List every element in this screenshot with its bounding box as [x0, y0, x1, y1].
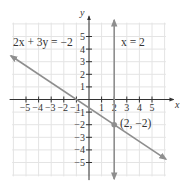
y-tick-label: 3 — [80, 56, 85, 67]
x-tick-label: 3 — [124, 102, 129, 113]
y-tick-label: −2 — [74, 119, 85, 130]
x-tick-label: −3 — [45, 102, 56, 113]
y-tick-label: 4 — [80, 44, 85, 55]
point-label: (2, −2) — [120, 117, 152, 130]
x-axis-label: x — [174, 99, 180, 110]
y-tick-label: 2 — [80, 69, 85, 80]
x-tick-label: −5 — [20, 102, 31, 113]
x-tick-label: −4 — [32, 102, 43, 113]
equation-label-vertical: x = 2 — [121, 36, 145, 48]
y-tick-label: 5 — [80, 31, 85, 42]
y-axis-label: y — [79, 7, 85, 18]
points — [111, 122, 117, 128]
x-tick-label: −2 — [57, 102, 68, 113]
y-tick-label: −1 — [74, 107, 85, 118]
y-tick-label: −3 — [74, 132, 85, 143]
coordinate-graph: −5−4−3−2−11234554321−1−2−3−4−5 y x 2x + … — [0, 0, 186, 189]
equation-label-line: 2x + 3y = −2 — [13, 36, 73, 49]
x-tick-label: 1 — [99, 102, 104, 113]
y-tick-label: 1 — [80, 81, 85, 92]
x-tick-label: 4 — [137, 102, 142, 113]
y-tick-label: −4 — [74, 144, 85, 155]
x-tick-label: 5 — [150, 102, 155, 113]
intersection-point — [111, 122, 117, 128]
y-tick-label: −5 — [74, 157, 85, 168]
